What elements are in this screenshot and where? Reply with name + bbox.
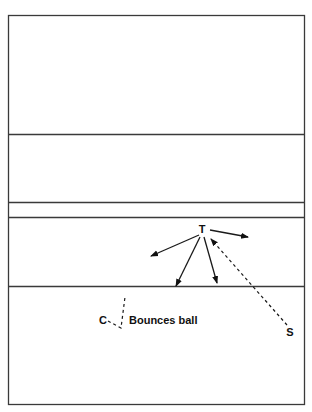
court-diagram: T S C Bounces ball: [0, 0, 312, 412]
player-c-label: C: [99, 314, 107, 326]
player-t-label: T: [199, 223, 206, 235]
arrow-down-left: [176, 237, 200, 286]
court-lines: [9, 135, 305, 287]
court-boundary: [9, 16, 305, 405]
pass-arrow-s-to-t: [211, 239, 287, 325]
arrow-right: [210, 230, 248, 237]
player-s-label: S: [286, 326, 293, 338]
movement-arrows: [151, 230, 248, 286]
bounces-ball-annotation: Bounces ball: [129, 314, 197, 326]
bounce-path: [108, 297, 125, 328]
